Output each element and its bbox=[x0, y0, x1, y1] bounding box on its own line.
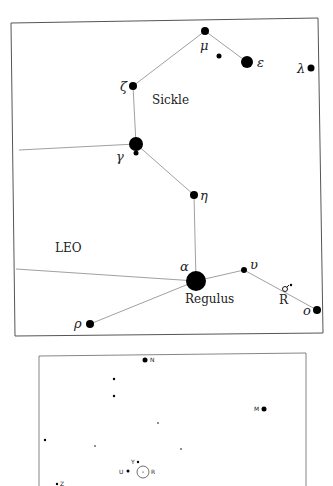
star[interactable] bbox=[113, 378, 115, 380]
star-lambda[interactable] bbox=[308, 65, 315, 72]
star-mu-companion[interactable] bbox=[217, 54, 222, 59]
star-M[interactable] bbox=[262, 407, 267, 412]
label-R: R bbox=[151, 468, 155, 475]
star-eta[interactable] bbox=[190, 191, 198, 199]
variable-label: R bbox=[279, 293, 289, 307]
star-N[interactable] bbox=[143, 358, 148, 363]
label-U: U bbox=[119, 468, 123, 475]
label-gamma: γ bbox=[116, 149, 124, 164]
label-M: M bbox=[254, 405, 259, 412]
leo-chart: μ ε λ ζ γ η α υ ο ρ Sickle LEO Regulus R bbox=[11, 18, 323, 336]
chart-frame bbox=[11, 18, 323, 336]
label-eta: η bbox=[200, 188, 208, 203]
constellation-title: LEO bbox=[55, 241, 82, 255]
finder-frame bbox=[39, 353, 306, 486]
star-rho[interactable] bbox=[86, 320, 94, 328]
label-alpha: α bbox=[180, 259, 189, 274]
variable-star-r-icon[interactable] bbox=[283, 285, 290, 292]
label-epsilon: ε bbox=[257, 55, 264, 70]
star-U[interactable] bbox=[127, 470, 130, 473]
star-zeta[interactable] bbox=[129, 82, 137, 90]
constellation-lines bbox=[16, 31, 317, 324]
star-gamma-companion[interactable] bbox=[134, 151, 139, 156]
regulus-label: Regulus bbox=[185, 292, 234, 306]
label-mu: μ bbox=[200, 38, 208, 53]
target-center bbox=[142, 471, 143, 472]
finder-chart: N M Y U R Z bbox=[39, 353, 306, 486]
star-regulus[interactable] bbox=[186, 271, 206, 291]
label-rho: ρ bbox=[73, 316, 82, 331]
asterism-label: Sickle bbox=[152, 93, 189, 107]
stars bbox=[86, 27, 321, 328]
label-upsilon: υ bbox=[250, 257, 258, 272]
star-Z[interactable] bbox=[56, 483, 58, 485]
label-zeta: ζ bbox=[120, 79, 128, 94]
star[interactable] bbox=[113, 395, 115, 397]
star-charts: μ ε λ ζ γ η α υ ο ρ Sickle LEO Regulus R bbox=[0, 0, 333, 486]
star[interactable] bbox=[157, 422, 159, 424]
star-epsilon[interactable] bbox=[241, 56, 253, 68]
star-r-companion[interactable] bbox=[290, 284, 292, 286]
label-Z: Z bbox=[60, 480, 64, 486]
label-omicron: ο bbox=[303, 303, 311, 318]
label-Y: Y bbox=[130, 458, 135, 465]
star[interactable] bbox=[94, 445, 96, 447]
star-Y[interactable] bbox=[137, 461, 139, 463]
star-upsilon[interactable] bbox=[241, 267, 247, 273]
star-omicron[interactable] bbox=[313, 306, 321, 314]
label-N: N bbox=[150, 356, 155, 363]
label-lambda: λ bbox=[296, 61, 305, 76]
star-mu[interactable] bbox=[201, 27, 209, 35]
star-gamma[interactable] bbox=[129, 137, 143, 151]
star[interactable] bbox=[180, 448, 182, 450]
finder-stars bbox=[44, 358, 267, 486]
star[interactable] bbox=[44, 439, 46, 441]
